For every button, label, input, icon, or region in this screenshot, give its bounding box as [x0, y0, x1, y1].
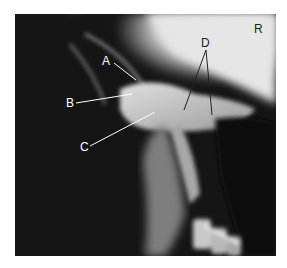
label-b: B [66, 97, 74, 109]
label-c: C [80, 141, 89, 153]
side-marker-r: R [254, 23, 263, 35]
label-d: D [201, 37, 210, 49]
radiograph-shading [15, 14, 276, 256]
radiograph-image [15, 14, 276, 256]
label-a: A [102, 55, 110, 67]
